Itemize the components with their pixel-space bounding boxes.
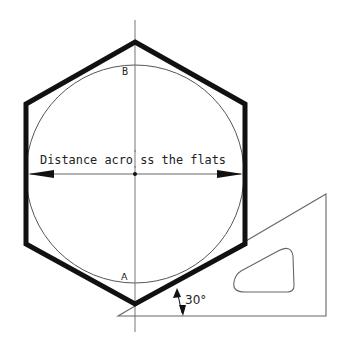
angle-label: 30° [185, 293, 206, 307]
point-label-b: B [122, 66, 128, 77]
point-label-a: A [121, 271, 128, 282]
dimension-label: Distance acro ss the flats [40, 153, 226, 167]
center-point [133, 172, 137, 176]
background [0, 0, 344, 340]
hexagon-construction-diagram: Distance acro ss the flats B A 30° [0, 0, 344, 340]
